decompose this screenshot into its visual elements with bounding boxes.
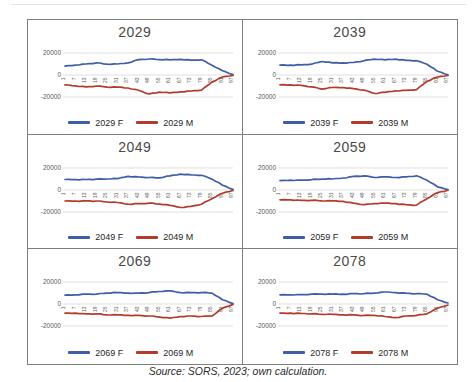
svg-text:19: 19 xyxy=(306,192,312,198)
legend-line-female-icon xyxy=(68,121,90,124)
chart-plot: 200000-200001713192531374349556167737985… xyxy=(31,274,239,336)
svg-text:37: 37 xyxy=(123,307,129,313)
svg-text:1: 1 xyxy=(275,307,281,310)
svg-text:20000: 20000 xyxy=(257,49,275,56)
legend-label-male: 2069 M xyxy=(163,348,193,358)
svg-text:55: 55 xyxy=(155,192,161,198)
svg-text:13: 13 xyxy=(81,77,87,83)
svg-text:67: 67 xyxy=(176,307,182,313)
chart-plot: 200000-200001713192531374349556167737985… xyxy=(246,160,454,222)
chart-panel-2059: 2059 200000-2000017131925313743495561677… xyxy=(243,135,458,250)
svg-text:85: 85 xyxy=(422,307,428,313)
svg-text:13: 13 xyxy=(81,192,87,198)
svg-text:13: 13 xyxy=(81,307,87,313)
svg-text:25: 25 xyxy=(102,307,108,313)
svg-text:31: 31 xyxy=(113,307,119,313)
svg-text:20000: 20000 xyxy=(257,279,275,286)
svg-text:49: 49 xyxy=(144,77,150,83)
svg-text:49: 49 xyxy=(144,307,150,313)
svg-text:61: 61 xyxy=(380,192,386,198)
svg-text:97: 97 xyxy=(228,307,234,313)
svg-text:67: 67 xyxy=(390,77,396,83)
svg-text:55: 55 xyxy=(369,307,375,313)
chart-legend: 2059 F 2059 M xyxy=(243,232,458,242)
svg-text:20000: 20000 xyxy=(43,164,61,171)
legend-label-female: 2049 F xyxy=(95,232,123,242)
svg-text:-20000: -20000 xyxy=(41,323,62,330)
chart-panel-2069: 2069 200000-2000017131925313743495561677… xyxy=(28,249,243,364)
svg-text:55: 55 xyxy=(369,192,375,198)
svg-text:55: 55 xyxy=(369,77,375,83)
svg-text:0: 0 xyxy=(57,71,61,78)
svg-text:31: 31 xyxy=(327,192,333,198)
svg-text:67: 67 xyxy=(176,77,182,83)
svg-text:-20000: -20000 xyxy=(255,93,276,100)
svg-text:61: 61 xyxy=(380,307,386,313)
svg-text:73: 73 xyxy=(186,77,192,83)
svg-text:7: 7 xyxy=(71,307,77,310)
chart-panel-2039: 2039 200000-2000017131925313743495561677… xyxy=(243,20,458,135)
legend-line-female-icon xyxy=(68,351,90,354)
chart-legend: 2039 F 2039 M xyxy=(243,118,458,128)
svg-text:73: 73 xyxy=(186,307,192,313)
chart-legend: 2078 F 2078 M xyxy=(243,348,458,358)
svg-text:61: 61 xyxy=(165,307,171,313)
svg-text:13: 13 xyxy=(296,77,302,83)
svg-text:43: 43 xyxy=(134,192,140,198)
chart-plot: 200000-200001713192531374349556167737985… xyxy=(31,45,239,107)
svg-text:85: 85 xyxy=(207,307,213,313)
svg-text:1: 1 xyxy=(60,307,66,310)
svg-text:79: 79 xyxy=(197,77,203,83)
svg-text:-20000: -20000 xyxy=(41,208,62,215)
svg-text:43: 43 xyxy=(348,77,354,83)
svg-text:13: 13 xyxy=(296,307,302,313)
legend-line-female-icon xyxy=(283,121,305,124)
svg-text:19: 19 xyxy=(306,77,312,83)
svg-text:7: 7 xyxy=(71,192,77,195)
svg-text:49: 49 xyxy=(359,307,365,313)
svg-text:31: 31 xyxy=(113,192,119,198)
legend-label-male: 2029 M xyxy=(163,118,193,128)
svg-text:-20000: -20000 xyxy=(255,323,276,330)
legend-label-female: 2029 F xyxy=(95,118,123,128)
svg-text:55: 55 xyxy=(155,307,161,313)
chart-panel-2049: 2049 200000-2000017131925313743495561677… xyxy=(28,135,243,250)
legend-label-male: 2039 M xyxy=(378,118,408,128)
chart-legend: 2069 F 2069 M xyxy=(28,348,242,358)
figure-grid: 2029 200000-2000017131925313743495561677… xyxy=(27,19,458,365)
svg-text:25: 25 xyxy=(317,77,323,83)
svg-text:37: 37 xyxy=(123,192,129,198)
svg-text:25: 25 xyxy=(317,307,323,313)
legend-line-male-icon xyxy=(136,121,158,124)
svg-text:49: 49 xyxy=(144,192,150,198)
chart-title: 2049 xyxy=(28,139,242,156)
legend-label-female: 2059 F xyxy=(310,232,338,242)
legend-line-male-icon xyxy=(351,121,373,124)
svg-text:61: 61 xyxy=(165,77,171,83)
svg-text:1: 1 xyxy=(275,192,281,195)
svg-text:73: 73 xyxy=(186,192,192,198)
svg-text:19: 19 xyxy=(92,77,98,83)
svg-text:85: 85 xyxy=(422,192,428,198)
svg-text:79: 79 xyxy=(411,307,417,313)
svg-text:49: 49 xyxy=(359,77,365,83)
svg-text:73: 73 xyxy=(401,77,407,83)
chart-plot: 200000-200001713192531374349556167737985… xyxy=(246,45,454,107)
legend-line-male-icon xyxy=(351,351,373,354)
legend-line-female-icon xyxy=(283,351,305,354)
legend-label-female: 2039 F xyxy=(310,118,338,128)
legend-label-female: 2078 F xyxy=(310,348,338,358)
chart-title: 2078 xyxy=(243,253,458,270)
svg-text:61: 61 xyxy=(380,77,386,83)
svg-text:67: 67 xyxy=(390,307,396,313)
svg-text:1: 1 xyxy=(60,192,66,195)
svg-text:73: 73 xyxy=(401,192,407,198)
svg-text:61: 61 xyxy=(165,192,171,198)
legend-label-male: 2078 M xyxy=(378,348,408,358)
svg-text:67: 67 xyxy=(176,192,182,198)
svg-text:0: 0 xyxy=(272,186,276,193)
svg-text:37: 37 xyxy=(338,307,344,313)
svg-text:43: 43 xyxy=(134,307,140,313)
svg-text:43: 43 xyxy=(348,307,354,313)
svg-text:7: 7 xyxy=(285,77,291,80)
